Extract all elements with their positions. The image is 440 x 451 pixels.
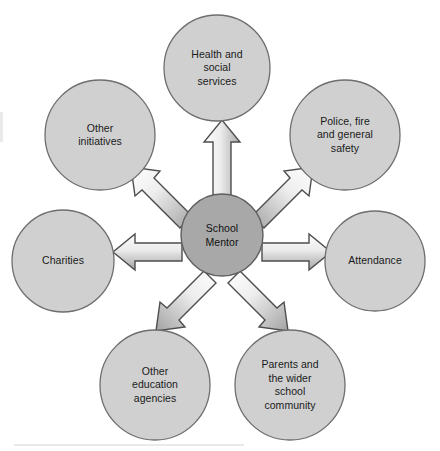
node-police-fire-and-general-safety[interactable] xyxy=(290,80,400,190)
node-school-mentor[interactable] xyxy=(181,194,263,276)
arrow-to-police-fire-and-general-safety xyxy=(252,167,313,228)
node-other-initiatives[interactable] xyxy=(45,80,155,190)
node-parents-and-the-wider-school-community[interactable] xyxy=(235,330,345,440)
diagram-graphics xyxy=(0,0,440,451)
node-attendance[interactable] xyxy=(325,211,425,311)
node-health-and-social-services[interactable] xyxy=(164,15,270,121)
arrow-to-attendance xyxy=(262,234,331,270)
scan-artifact-bottom-edge xyxy=(14,444,244,446)
arrow-to-health-and-social-services xyxy=(204,120,240,195)
diagram-canvas: Health and social services Police, fire … xyxy=(0,0,440,451)
arrow-to-other-education-agencies xyxy=(156,271,216,331)
node-charities[interactable] xyxy=(12,210,114,312)
arrow-to-other-initiatives xyxy=(131,167,192,228)
node-other-education-agencies[interactable] xyxy=(100,330,210,440)
arrow-to-charities xyxy=(113,234,182,270)
arrow-to-parents-and-the-wider-school-community xyxy=(228,271,288,331)
scan-artifact-left-edge xyxy=(0,112,3,142)
